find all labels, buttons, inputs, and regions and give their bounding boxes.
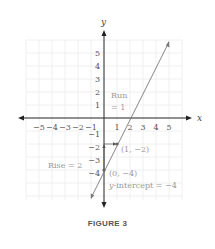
svg-text:2: 2 <box>95 88 100 97</box>
point-2-label: (0, −4) <box>109 169 137 178</box>
rise-label: Rise = 2 <box>48 161 82 170</box>
arrow-down-icon <box>102 202 107 208</box>
svg-text:−2: −2 <box>72 123 84 132</box>
point-0-neg4 <box>102 168 105 171</box>
arrow-up-icon <box>102 30 107 36</box>
arrow-right-icon <box>186 116 192 121</box>
y-axis <box>102 30 107 208</box>
svg-text:4: 4 <box>95 62 100 71</box>
rise-arrow-icon <box>102 144 105 148</box>
svg-text:3: 3 <box>95 75 100 84</box>
figure-caption: FIGURE 3 <box>0 219 215 228</box>
y-tick-labels: 5 4 3 2 1 −1 −2 −3 −4 <box>88 49 100 178</box>
arrow-left-icon <box>18 116 24 121</box>
svg-text:5: 5 <box>167 123 172 132</box>
x-axis <box>18 116 192 121</box>
svg-text:−2: −2 <box>88 143 100 152</box>
svg-text:1: 1 <box>115 123 120 132</box>
coordinate-plane: x y −5 −4 −3 −2 −1 1 2 3 4 5 5 4 3 2 1 −… <box>0 0 215 249</box>
svg-text:5: 5 <box>95 49 100 58</box>
svg-text:−4: −4 <box>46 123 58 132</box>
point-1-neg2 <box>115 142 118 145</box>
svg-text:−4: −4 <box>88 169 100 178</box>
svg-text:−1: −1 <box>88 130 100 139</box>
slope-indicators <box>102 142 117 170</box>
svg-text:−5: −5 <box>33 123 45 132</box>
intercept-label: y-intercept = −4 <box>108 181 177 190</box>
run-label: Run <box>111 91 127 100</box>
svg-text:−3: −3 <box>88 156 100 165</box>
svg-text:3: 3 <box>141 123 146 132</box>
svg-text:1: 1 <box>95 101 100 110</box>
point-1-label: (1, −2) <box>121 145 149 154</box>
y-axis-label: y <box>100 17 107 27</box>
svg-text:−3: −3 <box>59 123 71 132</box>
x-axis-label: x <box>197 113 202 123</box>
run-value: = 1 <box>111 103 125 112</box>
svg-text:4: 4 <box>154 123 159 132</box>
